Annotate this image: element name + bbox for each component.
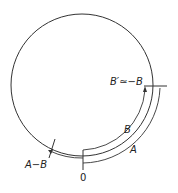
label-b-prime: B′≃−B [110, 76, 143, 87]
arc-a [83, 88, 160, 163]
arc-b [83, 90, 145, 150]
circle-arc-diagram: B′≃−B B A A−B 0 [0, 0, 178, 193]
label-a: A [129, 144, 137, 155]
label-a-minus-b: A−B [24, 159, 47, 170]
arc-b-arrowhead [143, 86, 147, 92]
label-origin: 0 [80, 172, 86, 183]
label-b: B [124, 124, 131, 135]
diagram-canvas: B′≃−B B A A−B 0 [0, 0, 178, 193]
